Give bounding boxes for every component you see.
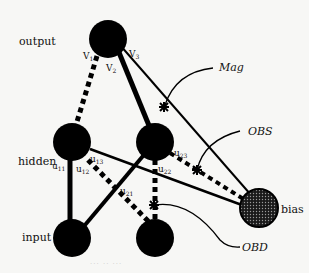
figure-caption: ··· ·· ··· (90, 260, 122, 268)
hidden-node-2 (136, 123, 174, 161)
hidden-label: hidden (18, 156, 56, 168)
weight-u13: u13 (90, 153, 103, 168)
obs-annotation: OBS (248, 126, 273, 138)
hidden-node-1 (53, 123, 91, 161)
mag-pointer (165, 68, 213, 105)
output-node (89, 20, 127, 58)
obd-annotation: OBD (242, 242, 268, 254)
bias-node (240, 189, 278, 227)
input-label: input (22, 232, 51, 244)
weight-u12: u12 (76, 163, 89, 178)
output-label: output (19, 36, 56, 48)
obs-pointer (197, 131, 240, 170)
bias-label: bias (281, 204, 304, 216)
input-node-2 (136, 219, 174, 257)
weight-v1: V1 (83, 50, 93, 65)
weight-u11: u11 (52, 160, 65, 175)
obd-asterisk-icon (149, 200, 159, 210)
weight-u23: u23 (174, 147, 187, 162)
weight-v3: V3 (129, 48, 139, 63)
obs-asterisk-icon (192, 165, 202, 175)
edge-u12-pruned (88, 160, 150, 223)
weight-u22: u22 (158, 163, 171, 178)
weight-v2: V2 (106, 62, 116, 77)
pruning-diagram: output hidden input bias V1 V2 V3 u11 u1… (0, 0, 309, 273)
weight-u21: u21 (120, 185, 133, 200)
input-node-1 (53, 219, 91, 257)
edge-u13 (90, 149, 250, 208)
edge-v1-pruned (76, 56, 97, 125)
mag-asterisk-icon (159, 102, 169, 112)
mag-annotation: Mag (219, 62, 244, 74)
